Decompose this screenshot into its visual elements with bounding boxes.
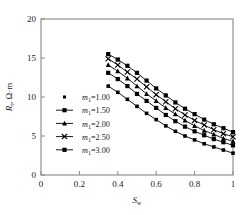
legend-label: m1=2.50 [82, 133, 110, 143]
svg-text:Rt, Ω·m: Rt, Ω·m [4, 83, 15, 112]
legend-label: m1=2.00 [82, 120, 110, 130]
legend-label: m1=1.50 [82, 106, 110, 116]
y-tick-label: 0 [32, 170, 37, 180]
y-axis-title: Rt, Ω·m [4, 83, 15, 112]
x-tick-label: 0.8 [189, 179, 201, 189]
legend-label: m1=1.00 [82, 93, 110, 103]
chart-background [0, 0, 250, 215]
x-tick-label: 0.4 [112, 179, 124, 189]
line-chart: 00.20.40.60.81 05101520 m1=1.00m1=1.50m1… [0, 0, 250, 215]
y-tick-label: 15 [27, 53, 37, 63]
x-tick-label: 0.6 [151, 179, 163, 189]
x-tick-label: 0 [39, 179, 44, 189]
x-tick-label: 1 [231, 179, 236, 189]
y-tick-label: 5 [32, 131, 37, 141]
legend-label: m1=3.00 [82, 146, 110, 156]
chart-figure: 00.20.40.60.81 05101520 m1=1.00m1=1.50m1… [0, 0, 250, 215]
y-tick-label: 10 [27, 92, 37, 102]
x-tick-label: 0.2 [74, 179, 85, 189]
y-tick-label: 20 [27, 14, 37, 24]
